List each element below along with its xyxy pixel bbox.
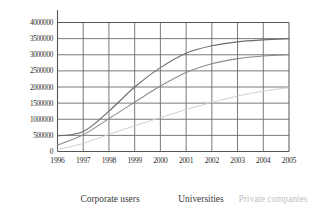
legend-item-corporate-users: Corporate users — [80, 194, 139, 204]
x-tick-label: 1997 — [76, 156, 91, 165]
x-tick-label: 1999 — [127, 156, 142, 165]
x-tick-label: 1998 — [102, 156, 117, 165]
legend-item-universities: Universities — [178, 194, 224, 204]
horizontal-gridlines — [58, 39, 290, 136]
x-tick-label: 2001 — [179, 156, 194, 165]
chart-axes — [58, 10, 290, 152]
y-axis-tick-labels: 0500000100000015000002000000250000030000… — [30, 19, 54, 156]
line-chart: 0500000100000015000002000000250000030000… — [0, 0, 321, 215]
y-tick-label: 0 — [50, 148, 54, 156]
x-axis-tick-labels: 1996199719981999200020012002200320042005 — [50, 156, 296, 165]
x-tick-label: 2000 — [153, 156, 168, 165]
y-tick-label: 2000000 — [30, 84, 54, 92]
y-tick-label: 3000000 — [30, 51, 54, 59]
data-series-group — [58, 39, 290, 150]
x-tick-label: 2005 — [282, 156, 297, 165]
y-tick-label: 1500000 — [30, 100, 54, 108]
x-tick-label: 2003 — [230, 156, 245, 165]
y-tick-label: 4000000 — [30, 19, 54, 27]
y-tick-label: 3500000 — [30, 35, 54, 43]
series-line-private-companies — [58, 88, 290, 150]
x-tick-label: 2002 — [205, 156, 220, 165]
series-line-universities — [58, 55, 290, 145]
chart-canvas: 0500000100000015000002000000250000030000… — [0, 0, 321, 215]
x-tick-label: 1996 — [50, 156, 65, 165]
y-tick-label: 500000 — [33, 132, 53, 140]
legend-item-private-companies: Private companies — [239, 194, 308, 204]
chart-legend: Corporate users Universities Private com… — [80, 194, 307, 204]
y-tick-label: 2500000 — [30, 67, 54, 75]
y-tick-label: 1000000 — [30, 116, 54, 124]
x-tick-label: 2004 — [256, 156, 271, 165]
